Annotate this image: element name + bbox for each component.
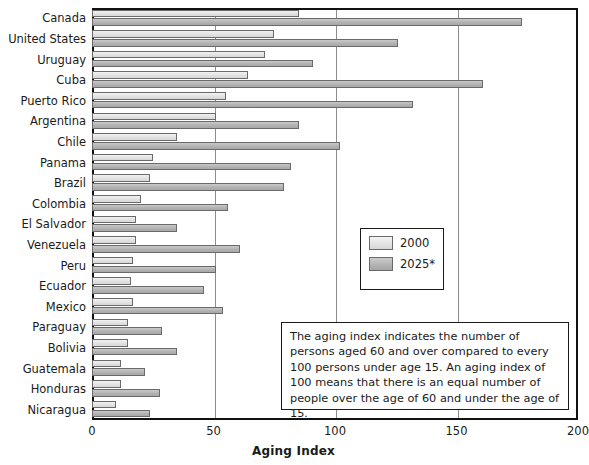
bar-row <box>92 111 578 132</box>
bar-united-states-2000 <box>92 30 274 38</box>
legend-label-2025: 2025* <box>400 257 435 271</box>
bar-row <box>92 49 578 70</box>
bar-row <box>92 173 578 194</box>
category-label-peru: Peru <box>0 260 86 272</box>
category-label-puerto-rico: Puerto Rico <box>0 95 86 107</box>
legend-item-2000: 2000 <box>369 236 443 250</box>
category-label-bolivia: Bolivia <box>0 342 86 354</box>
bar-chile-2000 <box>92 133 177 141</box>
bar-row <box>92 276 578 297</box>
bar-row <box>92 8 578 29</box>
bar-guatemala-2000 <box>92 360 121 368</box>
bar-row <box>92 70 578 91</box>
category-label-panama: Panama <box>0 157 86 169</box>
bar-el-salvador-2000 <box>92 216 136 224</box>
bar-peru-2000 <box>92 257 133 265</box>
bar-argentina-2000 <box>92 113 216 121</box>
bar-colombia-2000 <box>92 195 141 203</box>
bar-row <box>92 29 578 50</box>
category-label-honduras: Honduras <box>0 383 86 395</box>
legend: 2000 2025* <box>360 228 444 290</box>
category-label-cuba: Cuba <box>0 74 86 86</box>
bar-row <box>92 132 578 153</box>
category-label-united-states: United States <box>0 33 86 45</box>
category-label-argentina: Argentina <box>0 115 86 127</box>
category-label-colombia: Colombia <box>0 198 86 210</box>
bar-row <box>92 235 578 256</box>
bar-brazil-2025 <box>92 183 284 191</box>
legend-swatch-2025 <box>369 257 393 271</box>
bar-canada-2025 <box>92 18 522 26</box>
bar-venezuela-2025 <box>92 245 240 253</box>
bar-mexico-2025 <box>92 307 223 315</box>
bar-puerto-rico-2025 <box>92 101 413 109</box>
category-label-guatemala: Guatemala <box>0 363 86 375</box>
category-label-ecuador: Ecuador <box>0 280 86 292</box>
category-label-canada: Canada <box>0 12 86 24</box>
legend-item-2025: 2025* <box>369 257 443 271</box>
bar-paraguay-2025 <box>92 327 162 335</box>
legend-label-2000: 2000 <box>400 236 429 250</box>
bar-row <box>92 255 578 276</box>
bar-panama-2025 <box>92 163 291 171</box>
bar-puerto-rico-2000 <box>92 92 226 100</box>
bar-honduras-2000 <box>92 380 121 388</box>
bar-brazil-2000 <box>92 174 150 182</box>
category-axis-labels: CanadaUnited StatesUruguayCubaPuerto Ric… <box>0 8 86 420</box>
bar-argentina-2025 <box>92 121 299 129</box>
category-label-uruguay: Uruguay <box>0 54 86 66</box>
bar-bolivia-2025 <box>92 348 177 356</box>
bar-uruguay-2025 <box>92 60 313 68</box>
bar-colombia-2025 <box>92 204 228 212</box>
bar-peru-2025 <box>92 266 216 274</box>
bar-panama-2000 <box>92 154 153 162</box>
bar-cuba-2025 <box>92 80 483 88</box>
bar-cuba-2000 <box>92 71 248 79</box>
bar-mexico-2000 <box>92 298 133 306</box>
x-tick-50: 50 <box>206 424 221 438</box>
x-tick-150: 150 <box>446 424 468 438</box>
bar-nicaragua-2025 <box>92 410 150 418</box>
bar-row <box>92 152 578 173</box>
bar-canada-2000 <box>92 10 299 18</box>
category-label-brazil: Brazil <box>0 177 86 189</box>
bar-honduras-2025 <box>92 389 160 397</box>
legend-swatch-2000 <box>369 236 393 250</box>
x-tick-0: 0 <box>88 424 95 438</box>
x-tick-100: 100 <box>324 424 346 438</box>
category-label-nicaragua: Nicaragua <box>0 404 86 416</box>
category-label-mexico: Mexico <box>0 301 86 313</box>
bar-chile-2025 <box>92 142 340 150</box>
bar-united-states-2025 <box>92 39 398 47</box>
bar-row <box>92 214 578 235</box>
bar-row <box>92 193 578 214</box>
bar-row <box>92 90 578 111</box>
x-axis-title: Aging Index <box>0 444 587 458</box>
category-label-el-salvador: El Salvador <box>0 218 86 230</box>
category-label-chile: Chile <box>0 136 86 148</box>
bar-row <box>92 296 578 317</box>
bar-bolivia-2000 <box>92 339 128 347</box>
category-label-venezuela: Venezuela <box>0 239 86 251</box>
category-label-paraguay: Paraguay <box>0 321 86 333</box>
bar-nicaragua-2000 <box>92 401 116 409</box>
bar-paraguay-2000 <box>92 319 128 327</box>
bar-uruguay-2000 <box>92 51 265 59</box>
bar-ecuador-2025 <box>92 286 204 294</box>
annotation-note: The aging index indicates the number of … <box>281 322 569 410</box>
x-tick-200: 200 <box>567 424 589 438</box>
bar-ecuador-2000 <box>92 277 131 285</box>
bar-el-salvador-2025 <box>92 224 177 232</box>
bar-venezuela-2000 <box>92 236 136 244</box>
bar-guatemala-2025 <box>92 368 145 376</box>
